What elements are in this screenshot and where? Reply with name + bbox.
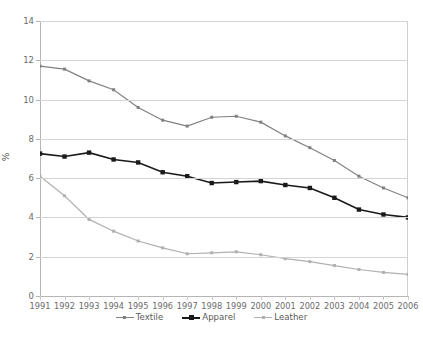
data-point [210, 251, 213, 254]
x-tick-label: 2006 [393, 302, 423, 311]
gridline [40, 100, 408, 101]
gridline [40, 178, 408, 179]
x-tick-mark [114, 296, 115, 300]
plot-area [40, 21, 408, 296]
data-point [235, 115, 238, 118]
data-point [234, 180, 238, 184]
data-point [63, 68, 66, 71]
data-point [259, 179, 263, 183]
data-point [381, 212, 385, 216]
data-point [161, 119, 164, 122]
data-point [186, 125, 189, 128]
data-point [137, 106, 140, 109]
data-point [62, 154, 66, 158]
y-tick-label: 6 [8, 174, 34, 183]
data-point [259, 121, 262, 124]
data-point [357, 207, 361, 211]
series-line [40, 153, 408, 218]
data-point [160, 170, 164, 174]
data-point [136, 160, 140, 164]
data-point [137, 240, 140, 243]
data-point [308, 146, 311, 149]
data-point [111, 157, 115, 161]
legend-item-apparel[interactable]: Apparel [182, 313, 235, 322]
legend-label: Textile [136, 313, 163, 322]
x-axis-line [40, 296, 408, 297]
y-tick-label: 2 [8, 253, 34, 262]
data-point [407, 196, 409, 199]
data-point [186, 252, 189, 255]
data-point [210, 181, 214, 185]
y-tick-label: 12 [8, 56, 34, 65]
legend-swatch-icon [254, 313, 272, 322]
data-point [112, 88, 115, 91]
x-tick-mark [40, 296, 41, 300]
x-tick-mark [334, 296, 335, 300]
x-tick-mark [285, 296, 286, 300]
legend-label: Leather [274, 313, 307, 322]
data-point [40, 65, 42, 68]
x-tick-mark [310, 296, 311, 300]
data-point [357, 268, 360, 271]
gridline [40, 21, 408, 22]
legend-swatch-icon [116, 313, 134, 322]
x-tick-mark [65, 296, 66, 300]
x-tick-mark [408, 296, 409, 300]
y-tick-label: 10 [8, 96, 34, 105]
data-point [112, 230, 115, 233]
series-line [40, 176, 408, 274]
series-apparel [40, 150, 408, 219]
x-tick-mark [359, 296, 360, 300]
data-point [283, 183, 287, 187]
series-layer [40, 21, 408, 296]
gridline [40, 257, 408, 258]
data-point [332, 196, 336, 200]
y-tick-label: 8 [8, 135, 34, 144]
data-point [87, 150, 91, 154]
x-tick-mark [138, 296, 139, 300]
gridline [40, 60, 408, 61]
y-tick-label: 0 [8, 292, 34, 301]
data-point [161, 246, 164, 249]
legend-swatch-icon [182, 313, 200, 322]
legend-item-leather[interactable]: Leather [254, 313, 307, 322]
data-point [210, 116, 213, 119]
x-tick-mark [261, 296, 262, 300]
legend-label: Apparel [202, 313, 235, 322]
x-tick-mark [163, 296, 164, 300]
x-tick-mark [89, 296, 90, 300]
x-tick-mark [236, 296, 237, 300]
data-point [333, 264, 336, 267]
data-point [333, 159, 336, 162]
data-point [308, 186, 312, 190]
gridline [40, 139, 408, 140]
y-tick-label: 4 [8, 213, 34, 222]
data-point [308, 260, 311, 263]
series-leather [40, 175, 408, 276]
legend-item-textile[interactable]: Textile [116, 313, 163, 322]
data-point [63, 194, 66, 197]
gridline [40, 217, 408, 218]
chart-root: % 02468101214 19911992199319941995199619… [0, 0, 423, 339]
data-point [235, 250, 238, 253]
x-tick-mark [212, 296, 213, 300]
data-point [88, 79, 91, 82]
x-tick-mark [383, 296, 384, 300]
y-axis-label: % [1, 153, 11, 162]
data-point [284, 134, 287, 137]
x-tick-mark [187, 296, 188, 300]
chart-legend: TextileApparelLeather [0, 313, 423, 322]
data-point [40, 151, 42, 155]
y-tick-label: 14 [8, 17, 34, 26]
data-point [382, 186, 385, 189]
data-point [382, 271, 385, 274]
data-point [407, 273, 409, 276]
